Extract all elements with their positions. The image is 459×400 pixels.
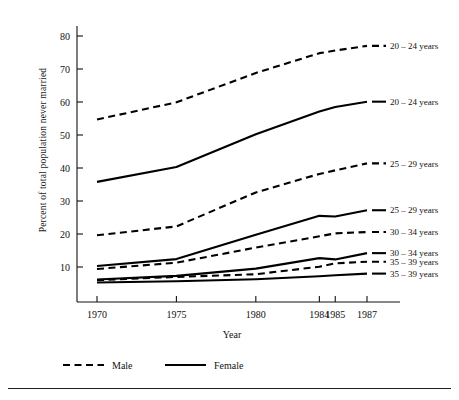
series-label: 35 – 39 years bbox=[390, 269, 439, 279]
series-label: 20 – 24 years bbox=[390, 97, 439, 107]
series-label: 25 – 29 years bbox=[390, 205, 439, 215]
x-tick-label: 1975 bbox=[166, 309, 186, 320]
x-tick-label: 1987 bbox=[357, 309, 377, 320]
y-tick-label: 20 bbox=[60, 229, 70, 240]
y-tick-label: 50 bbox=[60, 130, 70, 141]
chart-figure: 1020304050607080197019751980198419851987… bbox=[0, 0, 459, 400]
x-tick-label: 1980 bbox=[246, 309, 266, 320]
legend-label-male: Male bbox=[112, 360, 133, 371]
legend-label-female: Female bbox=[214, 360, 244, 371]
series-label: 35 – 39 years bbox=[390, 257, 439, 267]
y-axis-title: Percent of total population never marrie… bbox=[38, 30, 48, 270]
series-line-female-20-24 bbox=[97, 102, 367, 182]
series-label: 25 – 29 years bbox=[390, 159, 439, 169]
line-chart-svg: 1020304050607080197019751980198419851987… bbox=[0, 0, 459, 400]
plot-area: 1020304050607080197019751980198419851987… bbox=[0, 0, 459, 400]
y-tick-label: 80 bbox=[60, 31, 70, 42]
series-label: 30 – 34 years bbox=[390, 227, 439, 237]
series-label: 20 – 24 years bbox=[390, 41, 439, 51]
y-tick-label: 30 bbox=[60, 196, 70, 207]
x-axis-title: Year bbox=[223, 329, 242, 340]
y-tick-label: 10 bbox=[60, 262, 70, 273]
bottom-rule bbox=[8, 388, 451, 389]
x-tick-label: 1970 bbox=[87, 309, 107, 320]
x-tick-label: 1985 bbox=[325, 309, 345, 320]
y-tick-label: 70 bbox=[60, 64, 70, 75]
y-tick-label: 60 bbox=[60, 97, 70, 108]
y-tick-label: 40 bbox=[60, 163, 70, 174]
